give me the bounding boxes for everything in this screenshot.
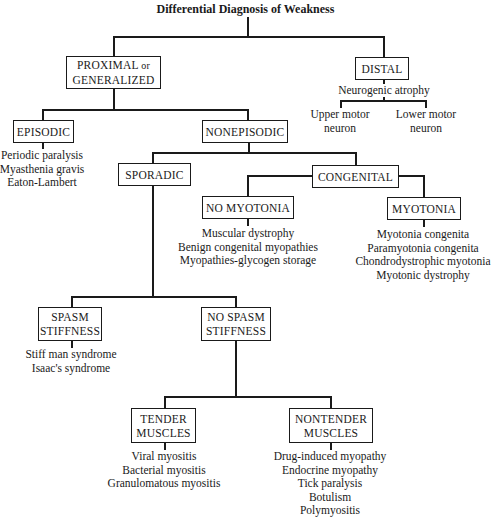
connector xyxy=(164,396,331,398)
connector xyxy=(247,175,249,196)
note-text: Neurogenic atrophy xyxy=(333,84,435,98)
upper-motor-neuron: Upper motor neuron xyxy=(302,108,378,135)
node-label: NONEPISODIC xyxy=(206,125,285,139)
node-label: CONGENITAL xyxy=(318,170,393,184)
list-item: Muscular dystrophy xyxy=(177,227,319,241)
spasm-list: Stiff man syndrome Isaac's syndrome xyxy=(21,348,121,375)
node-label: MUSCLES xyxy=(136,426,190,440)
node-label: SPASM xyxy=(51,310,89,324)
node-no-myotonia: NO MYOTONIA xyxy=(202,196,294,219)
node-proximal-generalized: PROXIMAL or GENERALIZED xyxy=(66,56,161,89)
list-item: Eaton-Lambert xyxy=(0,176,89,190)
connector xyxy=(152,152,356,154)
connector xyxy=(42,142,44,149)
connector xyxy=(423,175,425,197)
connector xyxy=(383,36,385,57)
node-no-spasm-stiffness: NO SPASM STIFFNESS xyxy=(201,307,271,341)
node-label: EPISODIC xyxy=(17,125,70,139)
node-label: MYOTONIA xyxy=(392,202,456,216)
list-item: Periodic paralysis xyxy=(0,149,89,163)
connector xyxy=(330,442,332,450)
node-tender-muscles: TENDER MUSCLES xyxy=(131,408,196,443)
connector xyxy=(42,109,248,111)
connector xyxy=(247,109,249,120)
connector xyxy=(71,296,236,298)
node-nontender-muscles: NONTENDER MUSCLES xyxy=(289,408,373,443)
connector xyxy=(113,36,115,56)
node-label: or xyxy=(141,60,150,71)
list-item: Viral myositis xyxy=(104,450,224,464)
node-label: NO SPASM xyxy=(207,310,265,324)
diagram-title: Differential Diagnosis of Weakness xyxy=(0,2,491,17)
list-item: Myotonic dystrophy xyxy=(350,269,491,283)
list-item: Myotonia congenita xyxy=(350,228,491,242)
list-item: Polymyositis xyxy=(270,504,390,518)
node-label: STIFFNESS xyxy=(40,324,100,338)
node-label: NO MYOTONIA xyxy=(206,201,290,215)
connector xyxy=(247,218,249,226)
connector xyxy=(247,17,249,36)
node-nonepisodic: NONEPISODIC xyxy=(202,120,288,143)
node-label: GENERALIZED xyxy=(72,73,154,87)
connector xyxy=(355,152,357,165)
connector xyxy=(248,142,250,152)
connector xyxy=(398,175,424,177)
list-item: Granulomatous myositis xyxy=(104,477,224,491)
list-item: Stiff man syndrome xyxy=(21,348,121,362)
connector xyxy=(113,36,384,38)
node-label: DISTAL xyxy=(361,62,402,76)
node-label: SPORADIC xyxy=(125,168,183,182)
episodic-list: Periodic paralysis Myasthenia gravis Eat… xyxy=(0,149,89,190)
list-item: Isaac's syndrome xyxy=(21,362,121,376)
connector xyxy=(152,152,154,163)
no-myotonia-list: Muscular dystrophy Benign congenital myo… xyxy=(177,227,319,268)
node-label: MUSCLES xyxy=(304,426,358,440)
connector xyxy=(71,296,73,307)
leaf-text: neuron xyxy=(302,122,378,136)
connector xyxy=(425,100,427,108)
node-sporadic: SPORADIC xyxy=(118,163,191,186)
connector xyxy=(340,100,426,102)
list-item: Drug-induced myopathy xyxy=(270,450,390,464)
node-label: PROXIMAL xyxy=(77,59,138,71)
connector xyxy=(340,100,342,108)
node-label: STIFFNESS xyxy=(206,324,266,338)
connector xyxy=(330,396,332,408)
leaf-text: neuron xyxy=(387,122,465,136)
list-item: Endocrine myopathy xyxy=(270,464,390,478)
list-item: Tick paralysis xyxy=(270,477,390,491)
connector xyxy=(42,109,44,120)
connector xyxy=(235,296,237,307)
tender-list: Viral myositis Bacterial myositis Granul… xyxy=(104,450,224,491)
connector xyxy=(71,340,73,348)
node-congenital: CONGENITAL xyxy=(312,165,399,188)
lower-motor-neuron: Lower motor neuron xyxy=(387,108,465,135)
connector xyxy=(113,88,115,109)
list-item: Myasthenia gravis xyxy=(0,163,89,177)
nontender-list: Drug-induced myopathy Endocrine myopathy… xyxy=(270,450,390,518)
node-myotonia: MYOTONIA xyxy=(387,197,461,220)
node-spasm-stiffness: SPASM STIFFNESS xyxy=(38,307,102,341)
list-item: Botulism xyxy=(270,491,390,505)
list-item: Paramyotonia congenita xyxy=(350,242,491,256)
connector xyxy=(164,396,166,408)
list-item: Chondrodystrophic myotonia xyxy=(350,255,491,269)
leaf-text: Upper motor xyxy=(302,108,378,122)
node-label: NONTENDER xyxy=(295,412,367,426)
distal-note: Neurogenic atrophy xyxy=(333,84,435,98)
connector xyxy=(423,219,425,227)
connector xyxy=(164,442,166,450)
connector xyxy=(152,185,154,296)
list-item: Benign congenital myopathies xyxy=(177,241,319,255)
connector xyxy=(247,175,312,177)
node-episodic: EPISODIC xyxy=(13,120,74,143)
myotonia-list: Myotonia congenita Paramyotonia congenit… xyxy=(350,228,491,282)
connector xyxy=(235,340,237,396)
node-label: TENDER xyxy=(140,412,187,426)
list-item: Bacterial myositis xyxy=(104,464,224,478)
node-distal: DISTAL xyxy=(355,57,409,80)
leaf-text: Lower motor xyxy=(387,108,465,122)
list-item: Myopathies-glycogen storage xyxy=(177,254,319,268)
